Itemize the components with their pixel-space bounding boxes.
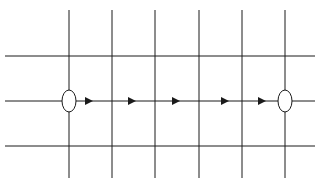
start-node [62, 90, 76, 112]
arrow-right-icon [128, 97, 136, 105]
end-node [278, 90, 292, 112]
arrow-right-icon [85, 97, 93, 105]
horizontal-lines [5, 56, 315, 146]
arrow-right-icon [258, 97, 266, 105]
grid-diagram [0, 0, 317, 183]
vertical-lines [69, 10, 285, 178]
arrow-right-icon [221, 97, 229, 105]
arrow-right-icon [172, 97, 180, 105]
